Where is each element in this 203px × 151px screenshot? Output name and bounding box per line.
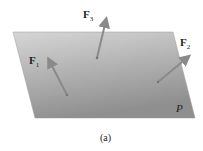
force-label-f2: F2 [180, 36, 191, 51]
plane-label: P [175, 102, 183, 114]
figure-caption: (a) [100, 132, 111, 144]
diagram-canvas: F1 F2 F3 P (a) [0, 0, 203, 151]
force-point-f3 [96, 57, 99, 60]
force-point-f1 [66, 94, 69, 97]
force-diagram: F1 F2 F3 P (a) [0, 0, 203, 151]
force-label-f3: F3 [83, 8, 94, 23]
force-point-f2 [157, 81, 160, 84]
